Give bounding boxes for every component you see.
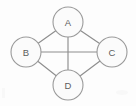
- edge-b-d: [38, 61, 56, 75]
- edge-a-b: [38, 31, 56, 44]
- node-c-label: C: [108, 47, 115, 58]
- edge-a-c: [80, 30, 99, 43]
- graph-diagram-figure: A B C D: [0, 0, 136, 106]
- node-d: D: [53, 70, 83, 100]
- edge-c-d: [80, 61, 100, 76]
- node-d-label: D: [64, 80, 71, 91]
- node-b-label: B: [23, 47, 30, 58]
- node-a: A: [53, 7, 83, 37]
- node-c: C: [97, 37, 127, 67]
- node-b: B: [11, 37, 41, 67]
- node-a-label: A: [65, 17, 72, 28]
- graph-canvas: A B C D: [0, 0, 136, 106]
